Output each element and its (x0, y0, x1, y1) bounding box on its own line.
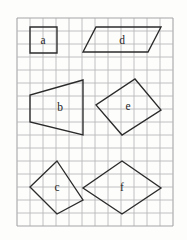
shapes-layer: adbecf (30, 27, 161, 214)
shape-d-label: d (119, 34, 125, 46)
shape-b-label: b (57, 101, 63, 113)
shape-e-label: e (125, 100, 130, 112)
shape-c-label: c (54, 181, 59, 193)
worksheet-figure: adbecf (0, 0, 187, 240)
shape-f-label: f (120, 181, 124, 193)
figure-canvas: adbecf (0, 0, 187, 240)
shape-a-label: a (40, 34, 45, 46)
